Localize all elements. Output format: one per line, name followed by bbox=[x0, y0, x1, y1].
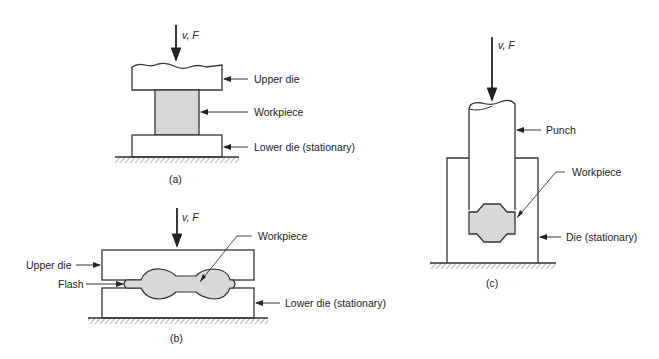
upper-die bbox=[132, 63, 222, 90]
lower-die bbox=[132, 135, 222, 157]
leader-workpiece bbox=[517, 172, 565, 218]
label-workpiece-a: Workpiece bbox=[254, 107, 303, 118]
punch bbox=[469, 100, 515, 210]
label-die-c: Die (stationary) bbox=[566, 232, 637, 243]
ground-hatch bbox=[430, 263, 556, 269]
panel-c bbox=[430, 37, 565, 269]
caption-c: (c) bbox=[486, 278, 498, 289]
force-label-a: v, F bbox=[182, 30, 199, 41]
label-punch-c: Punch bbox=[546, 125, 576, 136]
panel-a bbox=[115, 25, 248, 163]
label-upper-die-a: Upper die bbox=[254, 74, 300, 85]
label-lower-die-a: Lower die (stationary) bbox=[254, 142, 355, 153]
label-workpiece-c: Workpiece bbox=[572, 167, 621, 178]
panel-b bbox=[76, 208, 280, 324]
workpiece bbox=[155, 90, 199, 135]
force-label-b: v, F bbox=[182, 212, 199, 223]
ground-hatch bbox=[115, 157, 239, 163]
caption-a: (a) bbox=[169, 174, 182, 185]
label-workpiece-b: Workpiece bbox=[258, 231, 307, 242]
label-lower-die-b: Lower die (stationary) bbox=[285, 298, 386, 309]
ground-hatch bbox=[88, 318, 268, 324]
caption-b: (b) bbox=[170, 333, 183, 344]
label-upper-die-b: Upper die bbox=[26, 260, 72, 271]
force-label-c: v, F bbox=[498, 40, 515, 51]
label-flash-b: Flash bbox=[58, 279, 84, 290]
